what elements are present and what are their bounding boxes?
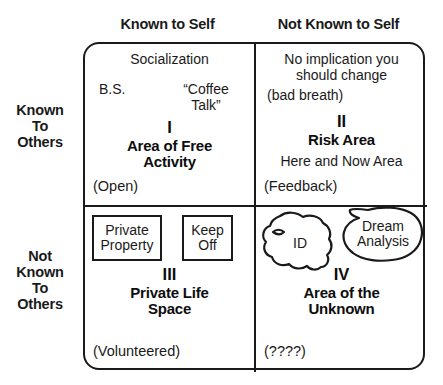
quadrant-2-sub-note: Here and Now Area [256,154,427,170]
quadrant-2-top-note: No implication you should change [256,52,427,83]
quadrant-4-title: Area of the Unknown [256,285,427,317]
quadrant-4-roman-numeral: IV [256,265,427,284]
quadrant-2-item-bad-breath: (bad breath) [267,88,387,104]
quadrant-4-area-of-unknown: ID Dream Analysis IV Area of the Unknown… [256,207,427,372]
quadrant-3-roman-numeral: III [85,265,254,284]
window-frame: Socialization B.S. “Coffee Talk” I Area … [83,42,425,370]
amoeba-icon [260,210,338,272]
quadrant-1-item-coffee-talk: “Coffee Talk” [167,82,245,113]
sign-private-property: Private Property [92,215,162,261]
row-label-known-to-others: Known To Others [2,102,78,150]
column-header-not-known-to-self: Not Known to Self [252,16,425,32]
quadrant-2-risk-area: No implication you should change (bad br… [256,44,427,205]
column-header-known-to-self: Known to Self [83,16,252,32]
quadrant-3-private-life-space: Private Property Keep Off III Private Li… [85,207,254,372]
quadrant-4-corner-note: (????) [264,343,306,359]
id-blob-shape: ID [260,210,338,272]
quadrant-1-roman-numeral: I [85,118,254,137]
quadrant-3-title: Private Life Space [85,285,254,317]
quadrant-1-title: Area of Free Activity [85,138,254,170]
quadrant-2-corner-note: (Feedback) [264,178,337,194]
quadrant-3-corner-note: (Volunteered) [93,343,180,359]
quadrant-1-item-bs: B.S. [99,82,159,98]
quadrant-1-top-note: Socialization [85,52,254,68]
cloud-icon [340,207,425,263]
quadrant-1-corner-note: (Open) [93,178,138,194]
quadrant-2-roman-numeral: II [256,112,427,131]
sign-keep-off: Keep Off [182,215,233,261]
dream-analysis-blob-shape: Dream Analysis [340,207,425,263]
johari-window-diagram: Known to Self Not Known to Self Known To… [0,0,443,385]
quadrant-1-open: Socialization B.S. “Coffee Talk” I Area … [85,44,254,205]
row-label-not-known-to-others: Not Known To Others [2,248,78,312]
quadrant-2-title: Risk Area [256,132,427,148]
